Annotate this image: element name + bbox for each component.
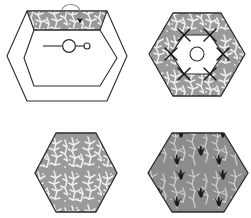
- top-patch-vine: [27, 11, 107, 30]
- panel-hexagon-with-single-patch: [7, 5, 127, 102]
- hexagon-assembly-figure: [0, 0, 251, 218]
- center-circle: [190, 47, 204, 61]
